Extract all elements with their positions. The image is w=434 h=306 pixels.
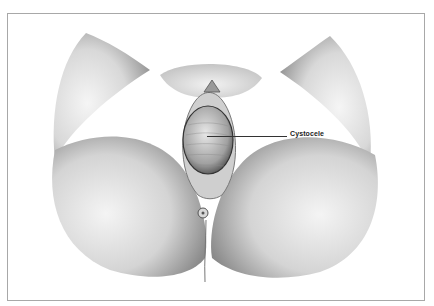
cystocele-bulge <box>183 106 233 174</box>
cystocele-leader-line <box>207 136 287 137</box>
cystocele-label: Cystocele <box>290 130 324 137</box>
right-buttock <box>211 137 378 277</box>
anatomical-sketch <box>0 0 434 306</box>
